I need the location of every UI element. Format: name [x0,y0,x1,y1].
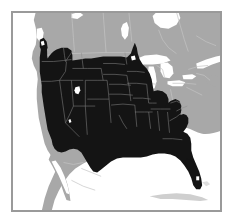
map-frame [11,11,222,212]
lake-okeechobee [196,176,199,180]
range-map-figure [0,0,235,224]
map-canvas [12,12,221,211]
